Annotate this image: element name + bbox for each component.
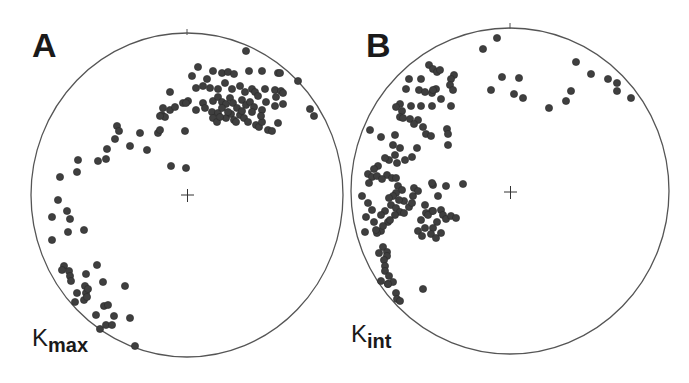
data-point [391,131,398,138]
data-point [386,216,393,223]
data-point [375,249,382,256]
data-point [182,99,189,106]
data-point [108,321,115,328]
data-point [567,87,574,94]
center-cross-a [181,189,194,202]
kmax-label: Kmax [32,326,88,350]
data-point [192,84,199,91]
data-point [181,127,188,134]
data-point [156,126,163,133]
data-point [479,45,486,52]
data-point [361,228,368,235]
data-point [417,75,424,82]
kint-data-points [358,34,634,304]
data-point [102,155,109,162]
kmax-label-main: K [32,324,48,351]
data-point [358,192,365,199]
data-point [103,145,110,152]
data-point [459,180,466,187]
data-point [54,196,61,203]
data-point [429,86,436,93]
data-point [587,70,594,77]
data-point [115,127,122,134]
data-point [216,113,223,120]
data-point [104,301,111,308]
data-point [80,226,87,233]
data-point [294,77,301,84]
panel-label-b: B [366,28,391,62]
data-point [166,88,173,95]
data-point [94,157,101,164]
data-point [99,278,106,285]
data-point [84,285,91,292]
data-point [111,135,118,142]
data-point [498,73,505,80]
data-point [437,229,444,236]
data-point [429,207,436,214]
data-point [136,129,143,136]
data-point [364,199,371,206]
data-point [510,90,517,97]
data-point [627,94,634,101]
data-point [203,75,210,82]
data-point [73,168,80,175]
data-point [83,293,90,300]
data-point [372,226,379,233]
data-point [392,174,399,181]
data-point [384,280,391,287]
data-point [199,82,206,89]
data-point [254,92,261,99]
data-point [421,224,428,231]
data-point [48,213,55,220]
data-point [221,79,228,86]
data-point [63,207,70,214]
data-point [67,277,74,284]
data-point [310,112,317,119]
data-point [268,127,275,134]
data-point [370,165,377,172]
data-point [271,102,278,109]
data-point [389,141,396,148]
data-point [370,218,377,225]
data-point [396,297,403,304]
data-point [613,79,620,86]
data-point [444,130,451,137]
kint-label-sub: int [367,330,391,352]
data-point [241,88,248,95]
data-point [442,182,449,189]
data-point [613,87,620,94]
data-point [562,97,569,104]
data-point [276,69,283,76]
stereonet-figure [0,0,689,383]
data-point [410,120,417,127]
data-point [377,211,384,218]
data-point [58,266,65,273]
data-point [182,164,189,171]
data-point [405,75,412,82]
data-point [242,47,249,54]
data-point [545,104,552,111]
data-point [262,98,269,105]
data-point [421,201,428,208]
data-point [48,236,55,243]
data-point [261,85,268,92]
data-point [417,216,424,223]
data-point [126,142,133,149]
data-point [368,206,375,213]
data-point [385,194,392,201]
data-point [427,132,434,139]
data-point [399,114,406,121]
data-point [209,67,216,74]
data-point [156,112,163,119]
data-point [159,104,166,111]
data-point [393,159,400,166]
data-point [258,67,265,74]
data-point [408,153,415,160]
data-point [238,107,245,114]
data-point [257,112,264,119]
stereonet-panel-b [351,23,669,354]
data-point [421,88,428,95]
data-point [248,108,255,115]
data-point [82,270,89,277]
data-point [71,298,78,305]
